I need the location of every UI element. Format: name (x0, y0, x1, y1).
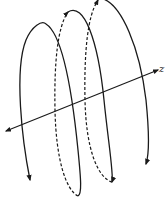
helix-turn-1-front-arc (46, 24, 81, 196)
helix-turn-3-back-arc (85, 2, 112, 182)
helix-turn-1-left-arc (20, 23, 46, 180)
helix-turn-2 (55, 10, 113, 196)
z-axis-label: z (158, 63, 165, 74)
z-axis (6, 70, 158, 131)
helix-turn-3-arrow (96, 0, 98, 4)
helix-turn-3-front-arc (100, 0, 148, 164)
helix-turn-3 (85, 0, 148, 182)
helix-turn-1 (20, 23, 81, 196)
helix-diagram: z (0, 0, 165, 203)
helix-turn-2-front-arc (68, 10, 112, 182)
helix-turn-2-arrow (66, 12, 68, 14)
